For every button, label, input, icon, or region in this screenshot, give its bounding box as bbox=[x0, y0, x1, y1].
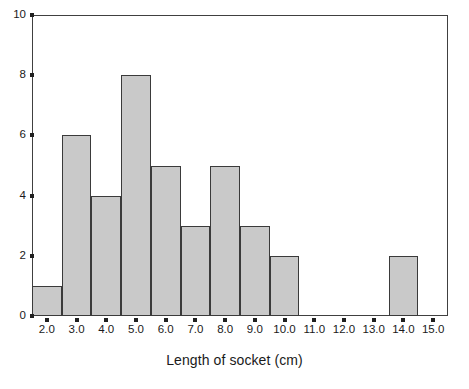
y-axis-tick-marks bbox=[0, 15, 469, 316]
x-axis-tick-label: 13.0 bbox=[363, 324, 385, 336]
x-axis-tick-label: 9.0 bbox=[247, 324, 263, 336]
x-axis-tick-label: 4.0 bbox=[98, 324, 114, 336]
x-axis-tick-mark bbox=[342, 318, 346, 322]
y-axis-tick-mark bbox=[30, 13, 34, 17]
x-axis-tick-mark bbox=[45, 318, 49, 322]
x-axis-tick-label: 7.0 bbox=[187, 324, 203, 336]
x-axis-ticks: 2.03.04.05.06.07.08.09.010.011.012.013.0… bbox=[32, 316, 448, 340]
x-axis-title: Length of socket (cm) bbox=[0, 352, 469, 368]
x-axis-tick-mark bbox=[283, 318, 287, 322]
x-axis-tick-mark bbox=[223, 318, 227, 322]
y-axis-tick-mark bbox=[30, 73, 34, 77]
x-axis-tick-mark bbox=[372, 318, 376, 322]
y-axis-tick-mark bbox=[30, 194, 34, 198]
x-axis-tick-label: 15.0 bbox=[422, 324, 444, 336]
x-axis-tick-label: 14.0 bbox=[392, 324, 414, 336]
y-axis-tick-mark bbox=[30, 133, 34, 137]
x-axis-tick-mark bbox=[134, 318, 138, 322]
x-axis-tick-label: 11.0 bbox=[304, 324, 326, 336]
x-axis-tick-mark bbox=[401, 318, 405, 322]
y-axis-tick-mark bbox=[30, 254, 34, 258]
x-axis-tick-label: 12.0 bbox=[333, 324, 355, 336]
x-axis-tick-mark bbox=[164, 318, 168, 322]
x-axis-tick-label: 3.0 bbox=[69, 324, 85, 336]
histogram-chart: 0246810 2.03.04.05.06.07.08.09.010.011.0… bbox=[0, 0, 469, 389]
x-axis-tick-label: 6.0 bbox=[158, 324, 174, 336]
x-axis-tick-mark bbox=[104, 318, 108, 322]
x-axis-tick-label: 8.0 bbox=[217, 324, 233, 336]
x-axis-tick-label: 2.0 bbox=[39, 324, 55, 336]
x-axis-tick-label: 10.0 bbox=[273, 324, 295, 336]
x-axis-tick-label: 5.0 bbox=[128, 324, 144, 336]
x-axis-tick-mark bbox=[312, 318, 316, 322]
x-axis-tick-mark bbox=[75, 318, 79, 322]
x-axis-tick-mark bbox=[253, 318, 257, 322]
x-axis-tick-mark bbox=[193, 318, 197, 322]
x-axis-tick-mark bbox=[431, 318, 435, 322]
